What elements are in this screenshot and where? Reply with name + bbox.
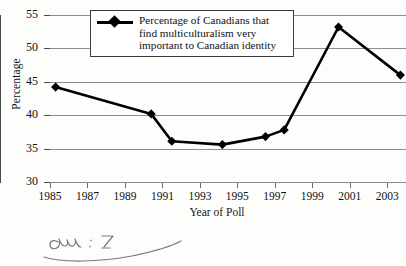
x-axis-title: Year of Poll [0, 206, 406, 218]
y-tick-label: 30 [12, 175, 38, 187]
gridline [50, 149, 406, 150]
y-tick-label: 35 [12, 142, 38, 154]
gridline [50, 115, 406, 116]
x-tick-label: 2003 [367, 190, 406, 202]
chart-legend: Percentage of Canadians that find multic… [90, 10, 294, 57]
x-tick-label: 1997 [255, 190, 295, 202]
x-tick-label: 1999 [292, 190, 332, 202]
legend-diamond-marker-icon [96, 15, 134, 29]
y-tick-label: 40 [12, 108, 38, 120]
handwritten-annotation [40, 218, 220, 264]
x-tick-label: 1991 [142, 190, 182, 202]
chart-container: Percentage 303540455055 1985198719891991… [0, 0, 406, 266]
y-tick-label: 50 [12, 41, 38, 53]
x-tick-label: 1995 [217, 190, 257, 202]
legend-entry-label: Percentage of Canadians that find multic… [139, 14, 288, 52]
y-axis-line [0, 15, 1, 183]
gridline [50, 182, 406, 183]
x-tick-label: 1987 [67, 190, 107, 202]
x-tick-label: 1993 [180, 190, 220, 202]
y-tick-label: 55 [12, 8, 38, 20]
x-tick-label: 1985 [30, 190, 70, 202]
gridline [50, 82, 406, 83]
y-tick-label: 45 [12, 75, 38, 87]
x-tick-label: 1989 [105, 190, 145, 202]
x-tick-label: 2001 [330, 190, 370, 202]
